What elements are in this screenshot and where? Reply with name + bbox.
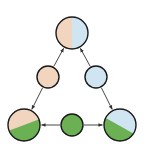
arrow-mid-right-to-top bbox=[80, 48, 90, 66]
triangle-diagram bbox=[0, 0, 144, 153]
node-mid-left bbox=[37, 66, 59, 88]
node-mid-right bbox=[85, 66, 107, 88]
node-bottom-left bbox=[8, 109, 40, 141]
node-bottom-right bbox=[104, 109, 136, 141]
arrow-mid-left-to-bottom-left bbox=[32, 88, 43, 110]
arrow-mid-left-to-top bbox=[54, 48, 64, 66]
node-top bbox=[56, 17, 88, 49]
node-bottom-center bbox=[61, 114, 83, 136]
nodes-group bbox=[8, 17, 136, 141]
arrow-mid-right-to-bottom-right bbox=[101, 88, 112, 110]
